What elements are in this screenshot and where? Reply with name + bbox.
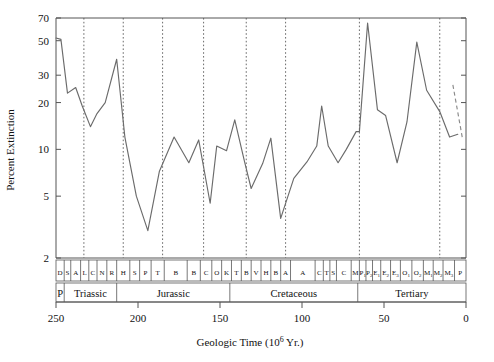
period-label: P (57, 288, 63, 299)
event-marker-group (84, 18, 440, 258)
period-label: Cretaceous (270, 288, 317, 299)
stage-label: A (73, 269, 78, 277)
stage-label: N (99, 269, 104, 277)
stage-label: P (458, 269, 462, 277)
stage-label: A (300, 269, 305, 277)
stage-label: M1 (424, 269, 433, 278)
y-tick-label: 70 (38, 12, 50, 24)
stage-label: B (244, 269, 249, 277)
stage-label: M2 (434, 269, 443, 278)
data-series-group (56, 23, 463, 231)
y-tick-label: 50 (38, 35, 50, 47)
stage-label: S (133, 269, 137, 277)
stage-label: K (224, 269, 229, 277)
y-axis-title: Percent Extinction (4, 109, 16, 191)
stage-label: T (324, 269, 329, 277)
x-tick-label: 200 (130, 312, 147, 324)
x-axis-ticks: 250200150100500 (48, 302, 470, 324)
y-tick-label: 30 (38, 69, 50, 81)
stage-label: B (273, 269, 278, 277)
stage-label: L (83, 269, 87, 277)
stage-label: V (254, 269, 259, 277)
stage-label: H (121, 269, 126, 277)
stage-label: C (341, 269, 346, 277)
period-label: Triassic (74, 288, 107, 299)
data-line (56, 23, 458, 231)
stage-label: C (91, 269, 96, 277)
x-tick-label: 250 (48, 312, 65, 324)
stage-label: S (331, 269, 335, 277)
y-tick-label: 2 (44, 252, 50, 264)
stage-label: A (283, 269, 288, 277)
x-tick-label: 50 (379, 312, 391, 324)
stage-label: B (191, 269, 196, 277)
x-tick-label: 100 (294, 312, 311, 324)
stage-strip: DSALCNRHSPTBBCOKTBVHBAACTSCMP1P2E1E2E3O1… (56, 260, 466, 281)
stage-label: T (156, 269, 161, 277)
stage-label: E2 (382, 269, 389, 278)
stage-label: E3 (392, 269, 399, 278)
y-tick-label: 5 (44, 190, 50, 202)
period-strip: PTriassicJurassicCretaceousTertiary (56, 283, 466, 302)
chart-figure: 251020305070 250200150100500 DSALCNRHSPT… (0, 0, 494, 362)
stage-label: T (234, 269, 239, 277)
y-tick-label: 10 (38, 143, 50, 155)
stage-label: C (317, 269, 322, 277)
stage-label: D (58, 269, 63, 277)
stage-label: P2 (366, 269, 373, 278)
period-label: Jurassic (157, 288, 191, 299)
stage-label: O1 (402, 269, 410, 278)
stage-label: H (263, 269, 268, 277)
extinction-line-chart: 251020305070 250200150100500 DSALCNRHSPT… (0, 0, 494, 362)
stage-label: E1 (373, 269, 380, 278)
stage-label: C (204, 269, 209, 277)
stage-label: O (214, 269, 219, 277)
stage-label: B (173, 269, 178, 277)
period-label: Tertiary (395, 288, 429, 299)
stage-label: O2 (414, 269, 422, 278)
y-axis-ticks: 251020305070 (38, 12, 466, 264)
y-tick-label: 20 (38, 97, 50, 109)
x-axis-title: Geologic Time (106 Yr.) (197, 335, 304, 349)
stage-label: M3 (444, 269, 453, 278)
data-line-dashed (453, 85, 463, 140)
stage-label: S (66, 269, 70, 277)
x-tick-label: 0 (463, 312, 469, 324)
stage-label: R (109, 269, 114, 277)
stage-label: P (143, 269, 147, 277)
plot-border (56, 18, 466, 258)
x-tick-label: 150 (212, 312, 229, 324)
stage-label: M (352, 269, 359, 277)
plot-frame (56, 18, 466, 258)
